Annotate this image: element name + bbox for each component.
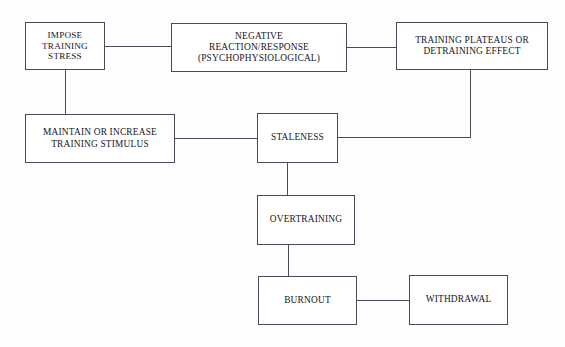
connector-staleness-to-overtraining <box>287 163 288 196</box>
node-label: BURNOUT <box>263 295 352 306</box>
connector-impose-to-negative <box>105 46 172 47</box>
node-negative-reaction[interactable]: NEGATIVE REACTION/RESPONSE (PSYCHOPHYSIO… <box>171 23 347 72</box>
node-burnout[interactable]: BURNOUT <box>258 276 357 325</box>
node-label: STALENESS <box>262 132 333 143</box>
connector-maintain-to-staleness <box>175 138 258 139</box>
node-maintain-or-increase-training-stimulus[interactable]: MAINTAIN OR INCREASE TRAINING STIMULUS <box>25 114 175 163</box>
node-label: NEGATIVE REACTION/RESPONSE (PSYCHOPHYSIO… <box>176 31 342 64</box>
node-overtraining[interactable]: OVERTRAINING <box>257 195 355 245</box>
flowchart-canvas: IMPOSE TRAINING STRESS NEGATIVE REACTION… <box>0 0 565 347</box>
node-label-line: BURNOUT <box>263 295 352 306</box>
node-label: IMPOSE TRAINING STRESS <box>30 30 100 63</box>
connector-plateaus-to-staleness-horizontal <box>338 137 471 138</box>
node-withdrawal[interactable]: WITHDRAWAL <box>409 275 508 325</box>
connector-overtraining-to-burnout <box>288 245 289 277</box>
node-label: MAINTAIN OR INCREASE TRAINING STIMULUS <box>30 127 170 149</box>
node-label-line: WITHDRAWAL <box>414 294 503 305</box>
connector-negative-to-plateaus <box>347 47 397 48</box>
connector-burnout-to-withdrawal <box>357 300 410 301</box>
node-label: WITHDRAWAL <box>414 294 503 305</box>
node-label-line: OVERTRAINING <box>262 214 350 225</box>
node-label: OVERTRAINING <box>262 214 350 225</box>
connector-plateaus-to-staleness-vertical <box>470 70 471 138</box>
node-training-plateaus[interactable]: TRAINING PLATEAUS OR DETRAINING EFFECT <box>396 22 548 70</box>
node-label-line: (PSYCHOPHYSIOLOGICAL) <box>176 53 342 64</box>
node-label-line: REACTION/RESPONSE <box>176 42 342 53</box>
node-label-line: STALENESS <box>262 132 333 143</box>
node-label-line: TRAINING <box>30 41 100 52</box>
node-label-line: TRAINING PLATEAUS OR <box>401 35 543 46</box>
node-staleness[interactable]: STALENESS <box>257 113 338 163</box>
node-label-line: STRESS <box>30 51 100 62</box>
node-label-line: DETRAINING EFFECT <box>401 46 543 57</box>
node-label: TRAINING PLATEAUS OR DETRAINING EFFECT <box>401 35 543 57</box>
node-label-line: NEGATIVE <box>176 31 342 42</box>
node-label-line: TRAINING STIMULUS <box>30 139 170 150</box>
node-label-line: MAINTAIN OR INCREASE <box>30 127 170 138</box>
node-label-line: IMPOSE <box>30 30 100 41</box>
node-impose-training-stress[interactable]: IMPOSE TRAINING STRESS <box>25 22 105 70</box>
connector-impose-to-maintain <box>65 70 66 115</box>
